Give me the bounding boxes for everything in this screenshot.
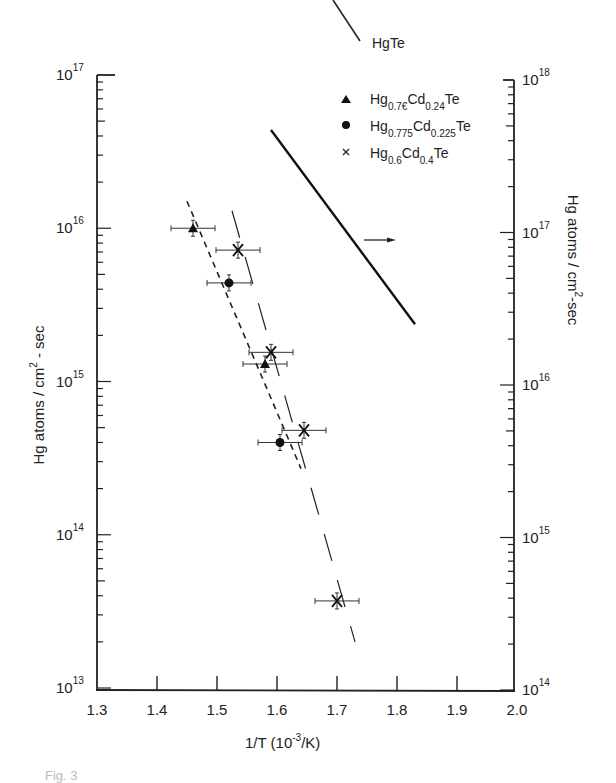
- x-tick-label: 1.7: [327, 701, 348, 718]
- x-tick-labels: 1.31.41.51.61.71.81.92.0: [87, 701, 528, 718]
- left-y-tick-labels: 10131014101510161017: [56, 62, 84, 696]
- legend-item-hgte: HgTe: [333, 0, 405, 51]
- data-point-x: [315, 593, 359, 609]
- x-tick-label: 1.9: [447, 701, 468, 718]
- data-point-triangle: [243, 356, 287, 372]
- legend-label-s1: Hg0.7€Cd0.24Te: [370, 91, 460, 112]
- x-marker-icon: [343, 149, 349, 155]
- left-y-tick-label: 1013: [56, 675, 84, 696]
- x-tick-label: 2.0: [507, 701, 528, 718]
- x-axis-ticks: [157, 676, 457, 690]
- fit-line-long-dash: [232, 211, 355, 642]
- left-y-axis-title: Hg atoms / cm2 - sec: [28, 325, 47, 464]
- data-point-circle: [207, 275, 251, 291]
- x-tick-label: 1.6: [267, 701, 288, 718]
- legend-item-s1: Hg0.7€Cd0.24Te: [341, 91, 460, 112]
- x-tick-label: 1.8: [387, 701, 408, 718]
- data-point-circle: [258, 434, 302, 450]
- legend-item-s3: Hg0.6Cd0.4Te: [343, 145, 449, 166]
- left-y-tick-label: 1017: [56, 62, 84, 83]
- fit-line-short-dash: [187, 201, 301, 468]
- figure-caption: Fig. 3: [45, 768, 78, 783]
- x-tick-label: 1.4: [147, 701, 168, 718]
- legend: HgTe Hg0.7€Cd0.24Te Hg0.775Cd0.225Te Hg0…: [333, 0, 471, 166]
- data-point-x: [249, 344, 293, 360]
- circle-marker-icon: [342, 121, 350, 129]
- legend-item-s2: Hg0.775Cd0.225Te: [342, 118, 471, 139]
- right-y-axis-title: Hg atoms / cm2-sec: [565, 195, 584, 326]
- left-y-tick-label: 1016: [56, 215, 84, 236]
- right-axis-ticks: [500, 87, 514, 690]
- right-axis-arrow-icon: [364, 238, 396, 243]
- triangle-marker-icon: [341, 95, 351, 103]
- data-points: [171, 220, 359, 609]
- x-axis-title: 1/T (10-3/K): [245, 732, 320, 751]
- data-point-x: [216, 242, 260, 258]
- data-point-triangle: [171, 220, 215, 236]
- x-tick-label: 1.3: [87, 701, 108, 718]
- right-y-tick-label: 1016: [522, 372, 550, 393]
- right-y-tick-label: 1014: [522, 677, 550, 698]
- left-y-tick-label: 1015: [56, 369, 84, 390]
- right-y-tick-label: 1018: [522, 67, 550, 88]
- right-y-tick-labels: 10141015101610171018: [522, 67, 550, 698]
- legend-label-s2: Hg0.775Cd0.225Te: [370, 118, 471, 139]
- data-point-x: [282, 422, 326, 438]
- left-y-tick-label: 1014: [56, 522, 84, 543]
- axes-frame: [96, 75, 515, 692]
- right-y-tick-label: 1017: [522, 220, 550, 241]
- legend-label-hgte: HgTe: [372, 35, 405, 51]
- right-y-tick-label: 1015: [522, 525, 550, 546]
- x-tick-label: 1.5: [207, 701, 228, 718]
- left-axis-ticks: [97, 82, 111, 688]
- solid-line-icon: [333, 0, 360, 41]
- legend-label-s3: Hg0.6Cd0.4Te: [370, 145, 449, 166]
